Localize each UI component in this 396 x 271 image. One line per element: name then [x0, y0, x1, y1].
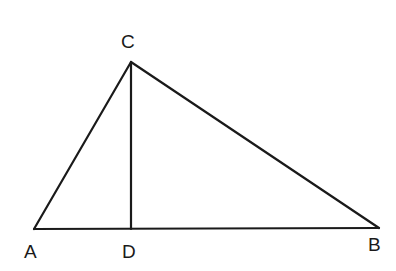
label-b: B	[368, 234, 381, 255]
segment-cb	[131, 62, 379, 228]
label-a: A	[24, 241, 37, 262]
label-d: D	[122, 241, 136, 262]
triangle-diagram: C A D B	[0, 0, 396, 271]
segment-ac	[34, 62, 131, 229]
label-c: C	[121, 31, 135, 52]
segment-ab	[34, 228, 379, 229]
